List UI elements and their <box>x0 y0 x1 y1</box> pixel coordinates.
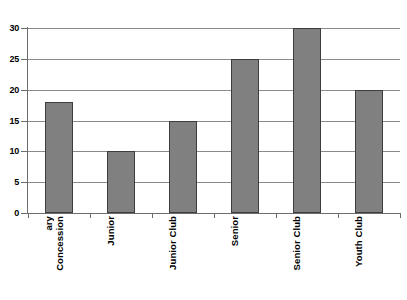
y-axis-tick-mark <box>21 59 27 60</box>
x-axis-label-line: Junior Club <box>167 216 178 270</box>
y-axis-tick-label: 0 <box>14 209 19 218</box>
bar <box>107 151 135 213</box>
x-axis-label-line: Senior Club <box>291 216 302 270</box>
x-axis-label: Senior Club <box>291 216 323 300</box>
x-axis-tick-mark <box>400 213 401 218</box>
y-axis-tick-mark <box>21 182 27 183</box>
y-axis-tick-label: 15 <box>9 116 19 125</box>
x-axis-label-line: Youth Club <box>353 216 364 267</box>
x-axis-label-line: Junior <box>105 216 116 246</box>
y-axis-tick-label: 30 <box>9 24 19 33</box>
bar <box>293 28 321 213</box>
x-axis-labels: ConcessionaryJuniorJunior ClubSeniorSeni… <box>28 216 400 300</box>
x-axis-label: Youth Club <box>353 216 385 300</box>
x-axis-label: Junior Club <box>167 216 199 300</box>
x-axis-label-line: Senior <box>229 216 240 246</box>
y-axis-tick-mark <box>21 213 27 214</box>
bar <box>45 102 73 213</box>
y-axis-tick-mark <box>21 121 27 122</box>
x-axis-label-line: ary <box>43 216 54 231</box>
bar <box>231 59 259 213</box>
y-axis-tick-mark <box>21 151 27 152</box>
y-axis-tick-mark <box>21 90 27 91</box>
y-axis-tick-label: 10 <box>9 147 19 156</box>
y-axis-tick-label: 5 <box>14 178 19 187</box>
y-axis-tick-mark <box>21 28 27 29</box>
x-axis-label-line: Concession <box>54 216 65 271</box>
x-axis-label: Junior <box>105 216 137 300</box>
bar <box>355 90 383 213</box>
bar-chart: 051015202530 ConcessionaryJuniorJunior C… <box>0 0 407 300</box>
bar <box>169 121 197 214</box>
y-axis-tick-label: 25 <box>9 54 19 63</box>
x-axis-label: Senior <box>229 216 261 300</box>
x-axis-label: Concessionary <box>43 216 75 300</box>
y-axis-tick-label: 20 <box>9 85 19 94</box>
bars-group <box>28 28 400 213</box>
